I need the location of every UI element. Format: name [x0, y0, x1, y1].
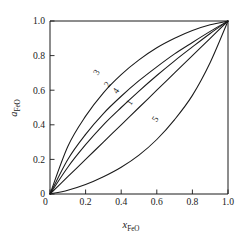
activity-composition-chart: 0 0.2 0.4 0.6 0.8 1.0 0 0.2 0.4 0.6 0.8 …: [0, 0, 248, 244]
y-tick-label: 0.6: [33, 85, 45, 96]
x-tick-label: 0.2: [80, 196, 92, 207]
x-tick-label: 0.8: [186, 196, 198, 207]
y-tick-label: 0.4: [33, 119, 45, 130]
x-axis-title-subscript: FeO: [127, 225, 139, 233]
y-axis-title-subscript: FeO: [14, 99, 22, 111]
x-tick-label: 0.6: [151, 196, 163, 207]
chart-canvas: 0 0.2 0.4 0.6 0.8 1.0 0 0.2 0.4 0.6 0.8 …: [0, 0, 248, 244]
x-tick-label: 0: [43, 196, 48, 207]
x-tick-label: 1.0: [222, 196, 234, 207]
x-tick-label: 0.4: [115, 196, 127, 207]
y-tick-label: 1.0: [33, 15, 45, 26]
y-tick-label: 0.8: [33, 50, 45, 61]
y-tick-label: 0.2: [33, 154, 45, 165]
